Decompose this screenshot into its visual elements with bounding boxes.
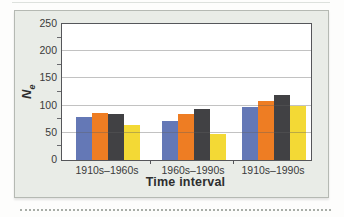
gridline-200 — [62, 50, 311, 51]
y-tick-label-200: 200 — [27, 44, 57, 56]
bar-orange-group3 — [258, 101, 274, 160]
y-tick-label-0: 0 — [27, 153, 57, 165]
bar-blue-group3 — [242, 107, 258, 160]
bar-yellow-group2 — [210, 134, 226, 160]
y-minor-tick-25 — [57, 145, 61, 146]
y-minor-tick-75 — [57, 118, 61, 119]
y-axis-title-base: N — [19, 90, 34, 99]
plot-area — [61, 23, 312, 161]
dotted-separator — [20, 209, 331, 211]
y-minor-tick-225 — [57, 37, 61, 38]
chart-card: Ne 0501001502002501910s–1960s1960s–1990s… — [14, 10, 329, 198]
gridline-150 — [62, 77, 311, 78]
bar-yellow-group1 — [124, 125, 140, 160]
bar-dark-gray-group1 — [108, 114, 124, 160]
bar-blue-group1 — [76, 117, 92, 161]
y-tick-label-100: 100 — [27, 99, 57, 111]
y-tick-label-150: 150 — [27, 71, 57, 83]
top-rule — [12, 2, 330, 3]
y-minor-tick-125 — [57, 91, 61, 92]
x-axis-title: Time interval — [61, 175, 310, 189]
gridline-100 — [62, 105, 311, 106]
y-tick-label-50: 50 — [27, 126, 57, 138]
y-axis-title-subscript: e — [27, 85, 37, 90]
bar-dark-gray-group2 — [194, 109, 210, 160]
y-minor-tick-175 — [57, 64, 61, 65]
gridline-50 — [62, 132, 311, 133]
bar-orange-group1 — [92, 113, 108, 160]
y-tick-label-250: 250 — [27, 17, 57, 29]
bar-blue-group2 — [162, 121, 178, 160]
bar-orange-group2 — [178, 114, 194, 160]
